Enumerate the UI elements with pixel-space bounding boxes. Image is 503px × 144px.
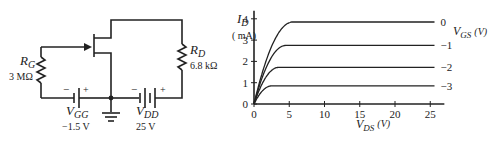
y-tick-label: 4 — [243, 13, 249, 25]
rd-resistor — [178, 44, 186, 70]
circuit: RG 3 MΩ RD 6.8 kΩ − + VGG −1.5 V − + VDD… — [9, 20, 217, 132]
vgg-plus: + — [83, 84, 89, 95]
rg-label: RG — [19, 53, 35, 70]
y-tick-label: 3 — [243, 34, 249, 46]
x-axis-label: VDS(V) — [356, 117, 391, 133]
y-tick-label: 0 — [243, 98, 249, 110]
source-wire — [94, 53, 111, 98]
vgg-value: −1.5 V — [62, 121, 90, 132]
curve-label-vgs: −3 — [440, 80, 452, 92]
x-tick-label: 0 — [251, 108, 257, 120]
x-tick-label: 10 — [319, 108, 331, 120]
rd-value: 6.8 kΩ — [190, 60, 217, 71]
ground-icon — [102, 113, 120, 121]
rg-value: 3 MΩ — [9, 71, 33, 82]
iv-curve-vgs-0 — [254, 22, 435, 104]
rg-resistor — [37, 57, 45, 83]
vgg-label: VGG — [66, 103, 88, 120]
iv-curve-vgs--3 — [254, 86, 435, 104]
iv-curve-vgs--1 — [254, 45, 435, 104]
vgg-minus: − — [63, 83, 69, 95]
curve-label-vgs: −2 — [440, 61, 452, 73]
x-tick-label: 20 — [390, 108, 402, 120]
vdd-plus: + — [160, 84, 166, 95]
x-tick-label: 25 — [425, 108, 437, 120]
legend-title: VGS(V) — [453, 24, 488, 40]
x-tick-label: 5 — [287, 108, 293, 120]
rd-label: RD — [189, 42, 206, 59]
y-tick-label: 1 — [243, 77, 249, 89]
chart: ID ( mA) 01234 0510152025 0−1−2−3 VGS(V)… — [232, 11, 488, 133]
y-tick-label: 2 — [243, 55, 249, 67]
curve-label-vgs: −1 — [440, 39, 452, 51]
gate-arrow-icon — [84, 43, 92, 51]
vdd-value: 25 V — [136, 121, 156, 132]
drain-wire — [94, 20, 182, 44]
curve-label-vgs: 0 — [440, 16, 446, 28]
vdd-minus: − — [131, 83, 137, 95]
figure: RG 3 MΩ RD 6.8 kΩ − + VGG −1.5 V − + VDD… — [0, 0, 503, 144]
